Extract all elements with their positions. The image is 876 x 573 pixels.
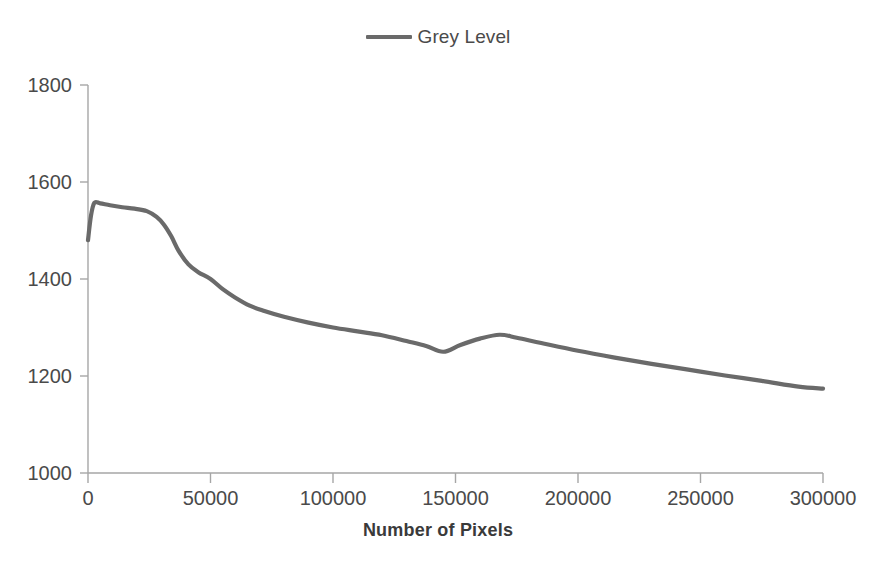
x-tick-label-50000: 50000: [183, 487, 239, 509]
y-tick-label-1000: 1000: [28, 462, 73, 484]
x-axis-group: 0 50000 100000 150000 200000 250000 3000…: [82, 473, 856, 509]
x-tick-label-200000: 200000: [545, 487, 612, 509]
y-tick-label-1400: 1400: [28, 268, 73, 290]
plot-area: 1800 1600 1400 1200 1000 0 50000 100000 …: [0, 0, 876, 573]
x-tick-label-250000: 250000: [667, 487, 734, 509]
x-tick-label-0: 0: [82, 487, 93, 509]
y-tick-label-1600: 1600: [28, 171, 73, 193]
x-axis-title: Number of Pixels: [0, 520, 876, 541]
y-tick-label-1200: 1200: [28, 365, 73, 387]
data-series-grey-level: [88, 202, 823, 389]
x-tick-label-150000: 150000: [422, 487, 489, 509]
y-tick-label-1800: 1800: [28, 74, 73, 96]
x-tick-label-100000: 100000: [300, 487, 367, 509]
chart-container: Grey Level 1800 1600 1400 1200 1000 0: [0, 0, 876, 573]
y-axis-group: 1800 1600 1400 1200 1000: [28, 74, 89, 484]
x-tick-label-300000: 300000: [790, 487, 857, 509]
